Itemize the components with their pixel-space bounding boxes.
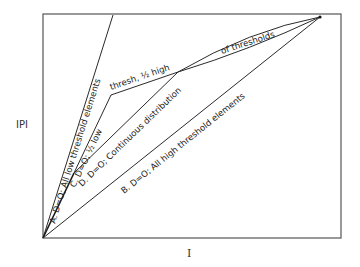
y-axis-label: IPI [16, 119, 28, 130]
x-axis-label: I [187, 247, 191, 260]
curve-b-label: B. D=O; All high threshold elements [119, 90, 247, 195]
curve-d-label-upper: of thresholds [220, 29, 277, 56]
convergence-point [318, 15, 321, 18]
threshold-diagram: A. D=O; All low threshold elements C. D=… [0, 0, 360, 267]
